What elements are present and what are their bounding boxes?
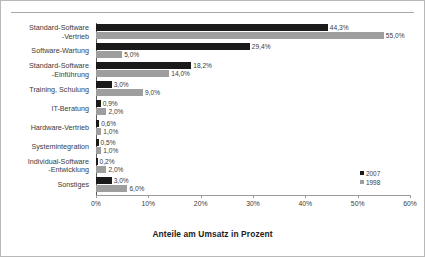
chart-row: Hardware-Vertrieb0,6%1,0% bbox=[1, 119, 425, 138]
bar-value-label: 9,0% bbox=[145, 89, 160, 96]
x-axis-line: 0%10%20%30%40%50%60% bbox=[96, 195, 410, 196]
bar-group-2007: 0,5% bbox=[96, 139, 425, 146]
bar-group-2007: 3,0% bbox=[96, 81, 425, 88]
x-axis-tick bbox=[305, 195, 306, 198]
x-axis-tick-label: 30% bbox=[246, 200, 260, 207]
category-label: Standard-Software -Vertrieb bbox=[1, 24, 93, 41]
row-bars: 29,4%5,0% bbox=[93, 42, 425, 61]
row-bars: 3,0%9,0% bbox=[93, 80, 425, 99]
row-bars: 44,3%55,0% bbox=[93, 23, 425, 42]
x-axis-tick-label: 50% bbox=[351, 200, 365, 207]
bar-value-label: 0,6% bbox=[101, 120, 116, 127]
x-axis-tick-label: 60% bbox=[403, 200, 417, 207]
bar-1998 bbox=[96, 32, 384, 39]
category-label: Hardware-Vertrieb bbox=[1, 124, 93, 133]
bar-value-label: 0,9% bbox=[103, 100, 118, 107]
legend-item-2007[interactable]: 2007 bbox=[360, 169, 380, 177]
bar-1998 bbox=[96, 147, 101, 154]
bar-2007 bbox=[96, 120, 99, 127]
bar-value-label: 2,0% bbox=[108, 166, 123, 173]
row-bars: 0,9%2,0% bbox=[93, 99, 425, 118]
x-axis-tick bbox=[358, 195, 359, 198]
x-axis-tick-label: 0% bbox=[91, 200, 101, 207]
legend-swatch-icon bbox=[360, 180, 364, 184]
bar-value-label: 14,0% bbox=[171, 70, 190, 77]
bar-2007 bbox=[96, 62, 191, 69]
x-axis-tick-label: 40% bbox=[299, 200, 313, 207]
x-axis-tick bbox=[410, 195, 411, 198]
bar-value-label: 3,0% bbox=[114, 81, 129, 88]
bar-group-1998: 1,0% bbox=[96, 147, 425, 154]
x-axis-tick bbox=[96, 195, 97, 198]
bar-1998 bbox=[96, 128, 101, 135]
bar-value-label: 3,0% bbox=[114, 177, 129, 184]
legend-label: 2007 bbox=[366, 170, 380, 177]
bar-group-1998: 5,0% bbox=[96, 51, 425, 58]
row-bars: 0,5%1,0% bbox=[93, 138, 425, 157]
chart-row: Training, Schulung3,0%9,0% bbox=[1, 80, 425, 99]
chart-row: Standard-Software -Einführung18,2%14,0% bbox=[1, 61, 425, 80]
bar-group-2007: 0,9% bbox=[96, 100, 425, 107]
x-axis-tick-label: 10% bbox=[142, 200, 156, 207]
bar-2007 bbox=[96, 43, 250, 50]
bar-group-1998: 1,0% bbox=[96, 128, 425, 135]
bar-1998 bbox=[96, 108, 106, 115]
bar-group-1998: 55,0% bbox=[96, 32, 425, 39]
bar-2007 bbox=[96, 81, 112, 88]
bar-1998 bbox=[96, 185, 127, 192]
bar-1998 bbox=[96, 166, 106, 173]
bar-group-2007: 0,6% bbox=[96, 120, 425, 127]
bar-2007 bbox=[96, 158, 98, 165]
bar-value-label: 1,0% bbox=[103, 128, 118, 135]
bar-2007 bbox=[96, 177, 112, 184]
chart-row: IT-Beratung0,9%2,0% bbox=[1, 99, 425, 118]
bar-value-label: 44,3% bbox=[330, 24, 349, 31]
bar-group-2007: 18,2% bbox=[96, 62, 425, 69]
bar-value-label: 55,0% bbox=[386, 32, 405, 39]
row-bars: 18,2%14,0% bbox=[93, 61, 425, 80]
bar-group-1998: 14,0% bbox=[96, 70, 425, 77]
bar-1998 bbox=[96, 51, 122, 58]
x-axis-tick bbox=[148, 195, 149, 198]
legend-label: 1998 bbox=[366, 179, 380, 186]
bar-group-2007: 44,3% bbox=[96, 24, 425, 31]
x-axis-tick-label: 20% bbox=[194, 200, 208, 207]
chart-figure: Standard-Software -Vertrieb44,3%55,0%Sof… bbox=[0, 0, 425, 257]
legend-item-1998[interactable]: 1998 bbox=[360, 178, 380, 186]
bar-value-label: 6,0% bbox=[129, 185, 144, 192]
x-axis-tick bbox=[201, 195, 202, 198]
bar-2007 bbox=[96, 139, 99, 146]
legend-swatch-icon bbox=[360, 171, 364, 175]
x-axis-title: Anteile am Umsatz in Prozent bbox=[1, 229, 424, 239]
category-label: Training, Schulung bbox=[1, 86, 93, 95]
bar-group-2007: 0,2% bbox=[96, 158, 425, 165]
category-label: IT-Beratung bbox=[1, 105, 93, 114]
category-label: Systemintegration bbox=[1, 143, 93, 152]
row-bars: 0,6%1,0% bbox=[93, 119, 425, 138]
bar-group-1998: 9,0% bbox=[96, 89, 425, 96]
bar-value-label: 18,2% bbox=[193, 62, 212, 69]
bar-group-1998: 2,0% bbox=[96, 108, 425, 115]
chart-row: Standard-Software -Vertrieb44,3%55,0% bbox=[1, 23, 425, 42]
bar-2007 bbox=[96, 24, 328, 31]
bar-value-label: 1,0% bbox=[103, 147, 118, 154]
chart-row: Software-Wartung29,4%5,0% bbox=[1, 42, 425, 61]
category-label: Individual-Software -Entwicklung bbox=[1, 158, 93, 175]
bar-value-label: 5,0% bbox=[124, 51, 139, 58]
bar-value-label: 0,2% bbox=[100, 158, 115, 165]
chart-legend: 20071998 bbox=[360, 169, 380, 187]
bar-1998 bbox=[96, 89, 143, 96]
bar-value-label: 2,0% bbox=[108, 108, 123, 115]
bar-group-2007: 29,4% bbox=[96, 43, 425, 50]
category-label: Software-Wartung bbox=[1, 47, 93, 56]
top-divider-rule bbox=[11, 12, 414, 13]
bar-1998 bbox=[96, 70, 169, 77]
bar-2007 bbox=[96, 100, 101, 107]
category-label: Sonstiges bbox=[1, 181, 93, 190]
bar-value-label: 0,5% bbox=[101, 139, 116, 146]
x-axis-tick bbox=[253, 195, 254, 198]
bar-value-label: 29,4% bbox=[252, 43, 271, 50]
category-label: Standard-Software -Einführung bbox=[1, 62, 93, 79]
chart-row: Systemintegration0,5%1,0% bbox=[1, 138, 425, 157]
